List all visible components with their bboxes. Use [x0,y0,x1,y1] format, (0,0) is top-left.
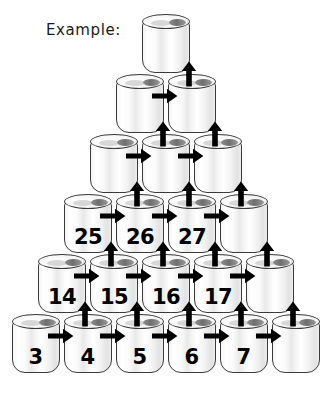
arrow-up-r4-4-icon [285,301,301,327]
arrow-right-r4-0-icon [74,268,100,284]
arrow-right-r5-3-icon [204,328,230,344]
can-label-25: 25 [74,227,102,248]
can-rim [12,314,60,329]
arrow-up-r1-1-icon [207,121,223,147]
can-label-17: 17 [204,287,232,308]
can-opening-icon [117,139,134,146]
can-rim-shade [73,200,93,206]
can-rim [64,194,112,209]
can-rim [90,134,138,149]
can-opening-icon [169,259,186,266]
can-opening-icon [221,139,238,146]
arrow-up-r1-0-icon [155,121,171,147]
can-opening-icon [247,199,264,206]
can-opening-icon [39,319,56,326]
can-rim [116,74,164,89]
can-label-27: 27 [178,227,206,248]
can-opening-icon [117,259,134,266]
can-label-4: 4 [81,347,95,368]
can-opening-icon [195,319,212,326]
can-rim [38,254,86,269]
can-rim-shade [151,20,171,26]
page-title: Example: [46,21,121,39]
arrow-up-r0-0-icon [181,61,197,87]
can-opening-icon [221,259,238,266]
can-opening-icon [169,19,186,26]
can-opening-icon [299,319,316,326]
arrow-right-r4-1-icon [126,268,152,284]
arrow-up-r3-1-icon [155,241,171,267]
arrow-right-r5-1-icon [100,328,126,344]
arrow-up-r3-3-icon [259,241,275,267]
can-label-3: 3 [29,347,43,368]
can-label-6: 6 [185,347,199,368]
can-opening-icon [91,319,108,326]
can-opening-icon [91,199,108,206]
arrow-up-r4-2-icon [181,301,197,327]
can-opening-icon [247,319,264,326]
arrow-up-r4-0-icon [77,301,93,327]
arrow-right-r3-0-icon [100,208,126,224]
can-label-16: 16 [152,287,180,308]
can-label-15: 15 [100,287,128,308]
can-rim [142,14,190,29]
can-label-7: 7 [237,347,251,368]
can-opening-icon [143,319,160,326]
can-label-26: 26 [126,227,154,248]
arrow-up-r3-2-icon [207,241,223,267]
arrow-up-r4-3-icon [233,301,249,327]
arrow-right-r5-4-icon [256,328,282,344]
arrow-up-r4-1-icon [129,301,145,327]
arrow-right-r2-0-icon [126,148,152,164]
arrow-right-r3-2-icon [204,208,230,224]
can-opening-icon [169,139,186,146]
can-opening-icon [195,79,212,86]
arrow-right-r5-2-icon [152,328,178,344]
can-label-14: 14 [48,287,76,308]
can-rim-shade [99,140,119,146]
arrow-right-r5-0-icon [48,328,74,344]
arrow-up-r3-0-icon [103,241,119,267]
arrow-right-r4-3-icon [230,268,256,284]
arrow-up-r2-2-icon [233,181,249,207]
can-opening-icon [195,199,212,206]
arrow-right-r3-1-icon [152,208,178,224]
arrow-right-r4-2-icon [178,268,204,284]
can-label-5: 5 [133,347,147,368]
arrow-up-r2-0-icon [129,181,145,207]
arrow-right-r1-0-icon [152,88,178,104]
arrow-right-r2-1-icon [178,148,204,164]
arrow-up-r2-1-icon [181,181,197,207]
can-rim-shade [125,80,145,86]
can-opening-icon [143,199,160,206]
can-rim-shade [21,320,41,326]
can-opening-icon [273,259,290,266]
can-pyramid-diagram: Example: 2526271415161734567 [0,0,325,401]
can-opening-icon [143,79,160,86]
can-rim-shade [47,260,67,266]
can-opening-icon [65,259,82,266]
